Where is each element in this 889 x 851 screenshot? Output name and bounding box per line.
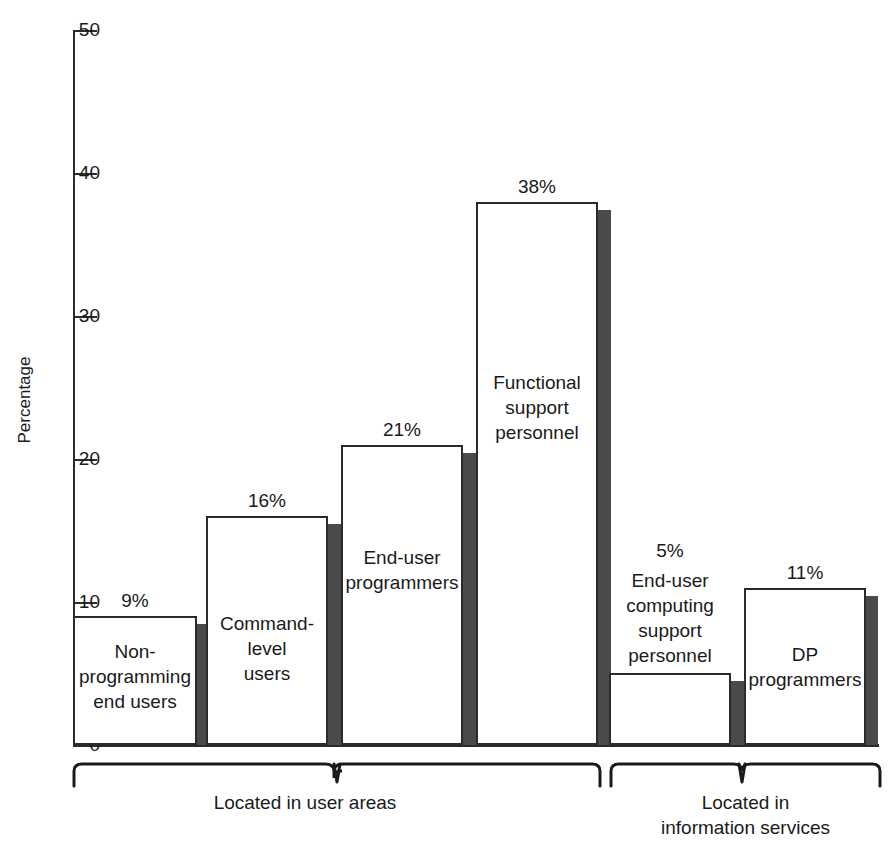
label-line: personnel [603,643,737,668]
label-line: Command- [202,611,332,636]
group-brace-information-services [608,758,883,788]
bar-value-label: 16% [206,490,328,512]
label-line: support [472,395,602,420]
label-line: level [202,636,332,661]
bar-shadow [461,453,476,745]
label-line: personnel [472,420,602,445]
bar-value-label: 38% [476,176,598,198]
label-line: DP [740,642,870,667]
label-line: Non- [69,639,201,664]
label-line: programmers [740,667,870,692]
bar-category-label: DP programmers [740,642,870,692]
y-tick-30: 30 [0,316,100,318]
bar-end-user-computing-support-personnel[interactable] [609,673,731,745]
group-caption-information-services: Located in information services [613,790,878,840]
y-tick-label: 20 [58,449,100,468]
label-line: End-user [603,568,737,593]
y-tick-label: 50 [58,20,100,39]
label-line: end users [69,689,201,714]
y-tick-label: 40 [58,163,100,182]
bar-category-label: Functional support personnel [472,370,602,445]
bar-value-label: 9% [73,590,197,612]
bar-category-label: End-user programmers [335,545,469,595]
y-tick-label: 30 [58,306,100,325]
y-axis-title: Percentage [15,340,35,460]
bar-category-label: Command- level users [202,611,332,686]
y-tick-20: 20 [0,459,100,461]
caption-line: Located in user areas [170,790,440,815]
label-line: programmers [335,570,469,595]
label-line: computing [603,593,737,618]
bar-category-label: End-user computing support personnel [603,568,737,668]
bar-value-label: 11% [744,562,866,584]
bar-functional-support-personnel[interactable] [476,202,598,745]
y-tick-0: 0 [0,745,100,747]
group-caption-user-areas: Located in user areas [170,790,440,815]
group-brace-user-areas [71,758,603,788]
bar-value-label: 21% [341,419,463,441]
caption-line: information services [613,815,878,840]
bar-value-label: 5% [609,540,731,562]
label-line: support [603,618,737,643]
bar-chart: Percentage 50 40 30 20 10 0 9% Non- prog… [0,0,889,851]
label-line: Functional [472,370,602,395]
label-line: programming [69,664,201,689]
y-tick-50: 50 [0,30,100,32]
y-tick-40: 40 [0,173,100,175]
caption-line: Located in [613,790,878,815]
bar-end-user-programmers[interactable] [341,445,463,745]
label-line: End-user [335,545,469,570]
label-line: users [202,661,332,686]
bar-category-label: Non- programming end users [69,639,201,714]
